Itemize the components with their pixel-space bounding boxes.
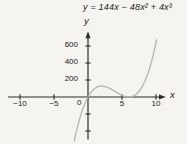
x-axis-label: x: [170, 90, 175, 100]
y-axis-label: y: [84, 16, 89, 26]
origin-tick-label: 0: [77, 99, 81, 107]
y-axis-arrowhead: [86, 31, 91, 38]
figure: y = 144x − 48x² + 4x³ y x 0 600 400 200 …: [0, 0, 187, 144]
x-tick-label-neg5: −5: [45, 100, 63, 108]
y-tick-label-200: 200: [58, 75, 78, 83]
x-tick-label-10: 10: [147, 100, 165, 108]
x-axis-arrowhead: [159, 94, 166, 99]
function-curve: [74, 40, 156, 141]
plot-canvas: [0, 0, 187, 144]
x-tick-label-5: 5: [113, 100, 131, 108]
x-tick-label-neg10: −10: [11, 100, 29, 108]
y-tick-label-600: 600: [58, 41, 78, 49]
equation-title: y = 144x − 48x² + 4x³: [83, 3, 172, 12]
y-tick-label-400: 400: [58, 58, 78, 66]
